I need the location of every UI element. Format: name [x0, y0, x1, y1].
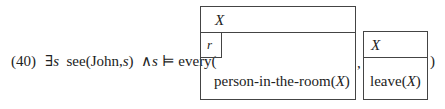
see-predicate-close: ) — [129, 53, 134, 69]
closing-paren: ) — [430, 54, 435, 69]
variable-s: s — [53, 53, 59, 69]
formula-prefix: ∃s see(John,s) ∧s ⊨ every( — [45, 54, 217, 69]
models-symbol: ⊨ — [162, 53, 175, 69]
argument-separator: , — [357, 56, 361, 71]
scope-universe: X — [371, 38, 380, 53]
example-number: (40) — [11, 54, 36, 69]
scope-drs-divider — [363, 57, 428, 58]
restrictor-drs-divider — [200, 32, 356, 33]
and-symbol: ∧ — [141, 53, 152, 69]
see-predicate-open: see(John, — [66, 53, 122, 69]
restrictor-condition: person-in-the-room(X) — [214, 74, 350, 89]
scope-condition: leave(X) — [370, 74, 421, 89]
exists-symbol: ∃ — [45, 53, 53, 69]
subbox-label: r — [207, 38, 212, 51]
variable-s: s — [152, 53, 158, 69]
restrictor-universe: X — [215, 13, 224, 28]
